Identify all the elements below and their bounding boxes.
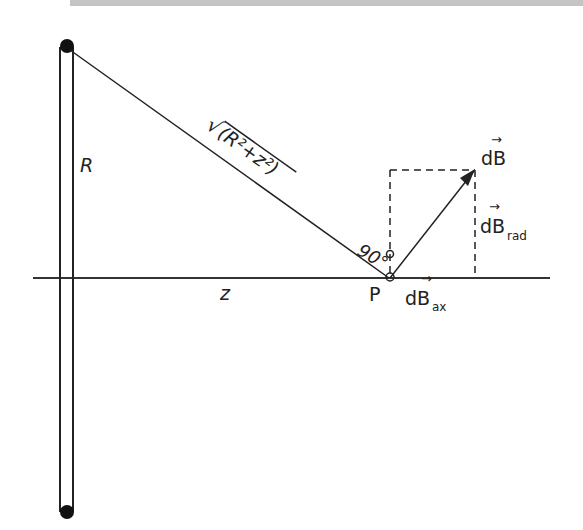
radius-label: R <box>80 154 93 176</box>
dB-vector-arrow: → <box>491 132 502 147</box>
biot-savart-loop-diagram: √ (R²+z²) R z 90° P dB → dB rad → dB ax … <box>0 0 583 530</box>
dB-arrowhead <box>460 169 475 186</box>
point-label: P <box>369 283 380 305</box>
dB-vector <box>390 171 474 278</box>
dB-rad-vector-arrow: → <box>489 199 500 214</box>
dB-ax-vector-arrow: → <box>421 271 432 286</box>
dB-label: dB <box>481 147 506 169</box>
dB-ax-label: dB <box>405 287 430 309</box>
dB-ax-subscript: ax <box>432 300 446 314</box>
current-element-bottom-dot <box>60 505 74 519</box>
angle-label: 90° <box>354 239 392 273</box>
dB-rad-subscript: rad <box>507 229 527 243</box>
dB-rad-label: dB <box>480 215 505 237</box>
sqrt-expression: (R²+z²) <box>214 121 283 179</box>
hypotenuse-line <box>70 50 389 278</box>
distance-label: z <box>219 282 231 304</box>
